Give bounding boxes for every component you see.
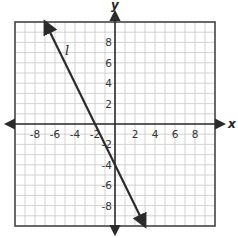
y-tick-label: 2 — [105, 98, 112, 110]
y-tick-label: 6 — [105, 57, 112, 69]
y-tick-label: 4 — [105, 77, 112, 89]
line-label-l: l — [65, 43, 69, 58]
y-axis-label: y — [111, 0, 120, 12]
x-tick-label: 4 — [152, 128, 159, 140]
coordinate-plane: x y -8-6-4-22468 8642-2-4-6-8 l — [0, 0, 238, 238]
x-tick-label: 8 — [192, 128, 199, 140]
x-tick-label: -6 — [50, 128, 61, 140]
x-tick-label: 6 — [172, 128, 179, 140]
x-tick-label: 2 — [132, 128, 139, 140]
x-axis-label: x — [227, 117, 237, 131]
x-tick-label: -4 — [70, 128, 81, 140]
y-tick-label: -8 — [102, 200, 112, 212]
y-tick-label: -6 — [102, 179, 113, 191]
y-tick-label: -4 — [102, 159, 113, 171]
y-tick-label: 8 — [105, 36, 112, 48]
x-tick-label: -8 — [30, 128, 40, 140]
